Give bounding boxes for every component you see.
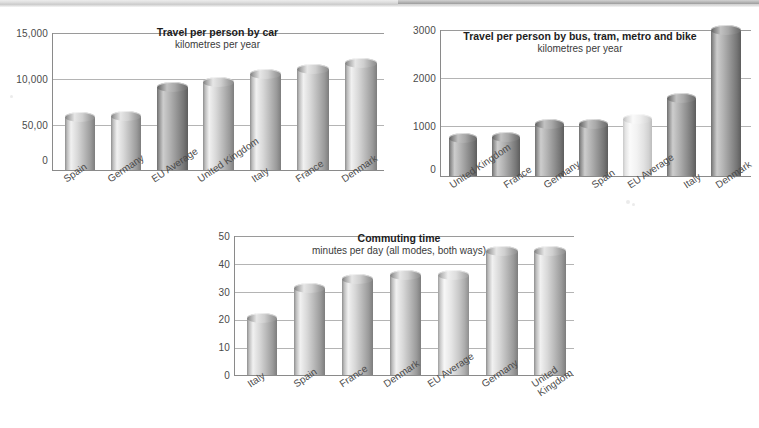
gridline-40 bbox=[235, 264, 574, 265]
y-tick-label: 50,00 bbox=[0, 120, 48, 131]
bar-united-kingdom bbox=[534, 246, 566, 375]
y-tick-label: 0 bbox=[200, 370, 230, 381]
gridline-3000 bbox=[441, 30, 751, 31]
y-tick-label: 20 bbox=[200, 314, 230, 325]
chart-commuting-time: 50 40 30 20 10 0 Commuting time minutes … bbox=[200, 228, 600, 428]
bar-denmark bbox=[711, 25, 741, 176]
gridline-2000 bbox=[441, 78, 751, 79]
y-tick-label: 3000 bbox=[398, 25, 436, 36]
y-tick-label: 50 bbox=[200, 231, 230, 242]
y-tick-label: 0 bbox=[0, 155, 48, 166]
bar-italy bbox=[247, 313, 277, 375]
gridline-50 bbox=[235, 236, 574, 237]
scan-speck bbox=[10, 95, 13, 98]
bar-germany bbox=[486, 246, 518, 375]
y-tick-label: 30 bbox=[200, 287, 230, 298]
y-tick-label: 2000 bbox=[398, 73, 436, 84]
bar-italy bbox=[250, 69, 281, 170]
scan-speck bbox=[626, 200, 630, 204]
y-tick-label: 0 bbox=[398, 164, 436, 175]
scan-edge-band-dark bbox=[398, 0, 759, 5]
y-tick-label: 1000 bbox=[398, 121, 436, 132]
bar-spain bbox=[579, 119, 608, 176]
plot-area bbox=[234, 236, 574, 376]
y-tick-label: 40 bbox=[200, 259, 230, 270]
bar-france bbox=[297, 64, 329, 170]
y-tick-label: 10 bbox=[200, 342, 230, 353]
bar-spain bbox=[294, 283, 325, 375]
bar-france bbox=[342, 274, 373, 375]
y-tick-label: 10,000 bbox=[0, 74, 48, 85]
y-tick-label: 15,000 bbox=[0, 28, 48, 39]
scan-speck bbox=[632, 203, 635, 206]
chart-travel-by-public-transport: 3000 2000 1000 0 Travel per person by bu… bbox=[398, 12, 759, 222]
plot-area bbox=[52, 33, 384, 171]
chart-travel-by-car: 15,000 10,000 50,00 0 Travel per person … bbox=[0, 12, 390, 222]
gridline-15000 bbox=[53, 33, 384, 34]
